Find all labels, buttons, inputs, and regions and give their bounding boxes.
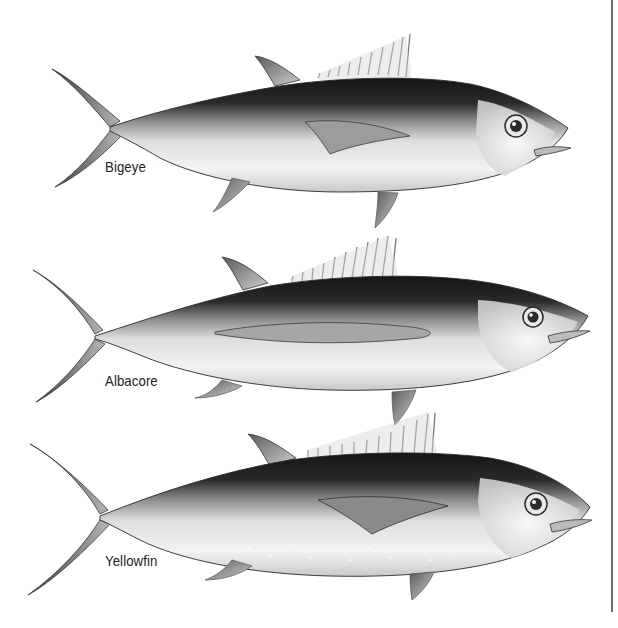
yellowfin-ventral-fin <box>410 572 434 600</box>
fish-bigeye <box>52 34 571 228</box>
fish-albacore <box>33 236 590 425</box>
fish-yellowfin <box>28 412 592 600</box>
bigeye-anal-fin <box>213 178 250 212</box>
label-albacore: Albacore <box>105 372 158 389</box>
tuna-species-plate: Bigeye Albacore Yellowfin <box>0 0 618 628</box>
yellowfin-caudal-fin <box>28 444 110 595</box>
bigeye-second-dorsal-fin <box>255 56 300 86</box>
albacore-caudal-fin <box>33 270 105 402</box>
label-yellowfin: Yellowfin <box>105 552 157 569</box>
bigeye-ventral-fin <box>375 192 398 228</box>
albacore-anal-fin <box>195 380 242 398</box>
tuna-illustrations <box>0 0 618 628</box>
label-bigeye: Bigeye <box>105 158 146 175</box>
albacore-second-dorsal-fin <box>222 257 268 290</box>
